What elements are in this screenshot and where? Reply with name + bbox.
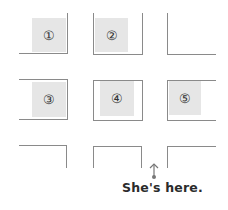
- building-3-label: ③: [43, 93, 55, 106]
- block-row3-col3-top-edge: [167, 146, 216, 147]
- block-5-bottom-edge: [167, 120, 216, 121]
- block-row3-col3-left-edge: [167, 146, 168, 168]
- block-row1-col3-bottom-edge: [167, 54, 216, 55]
- block-2-bottom-edge: [93, 54, 143, 55]
- block-3-top-edge: [19, 79, 68, 80]
- block-4-left-edge: [93, 80, 94, 120]
- block-2-right-edge: [142, 13, 143, 55]
- building-1[interactable]: ①: [32, 18, 66, 52]
- block-row3-col2-right-edge: [141, 146, 142, 168]
- building-4-label: ④: [111, 92, 123, 105]
- block-row3-col1-top-edge: [19, 145, 67, 146]
- building-5[interactable]: ⑤: [169, 81, 201, 115]
- block-2-left-edge: [93, 13, 94, 55]
- block-1-bottom-edge: [19, 53, 68, 54]
- building-2[interactable]: ②: [95, 18, 128, 52]
- location-caption: She's here.: [122, 180, 203, 195]
- block-4-right-edge: [142, 80, 143, 120]
- up-arrow-icon: [148, 161, 160, 181]
- building-4[interactable]: ④: [100, 81, 134, 116]
- block-row3-col1-right-edge: [66, 145, 67, 168]
- building-3[interactable]: ③: [32, 82, 66, 117]
- block-4-bottom-edge: [93, 120, 143, 121]
- block-3-bottom-edge: [19, 119, 68, 120]
- building-2-label: ②: [106, 29, 118, 42]
- building-5-label: ⑤: [179, 92, 191, 105]
- block-row1-col3-left-edge: [167, 13, 168, 55]
- block-3-right-edge: [67, 79, 68, 120]
- block-5-left-edge: [167, 80, 168, 120]
- block-row3-col2-left-edge: [93, 146, 94, 168]
- building-1-label: ①: [43, 29, 55, 42]
- block-1-right-edge: [67, 13, 68, 54]
- block-row3-col2-top-edge: [93, 146, 142, 147]
